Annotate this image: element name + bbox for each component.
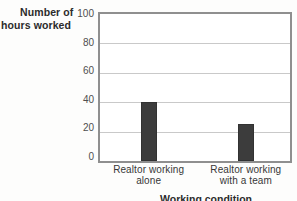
gridline-60 — [100, 73, 290, 74]
bar-chart-figure: Number of hours worked 020406080100 Real… — [0, 0, 297, 201]
y-tick-label-40: 40 — [0, 94, 94, 106]
x-category-label-realtor-working-alone: Realtor workingalone — [94, 165, 204, 186]
bar-realtor-working-with-a-team — [238, 124, 254, 161]
x-axis-title: Working condition — [146, 193, 266, 201]
y-tick-label-20: 20 — [0, 122, 94, 134]
y-tick-label-100: 100 — [0, 8, 94, 20]
gridline-40 — [100, 102, 290, 103]
bar-realtor-working-alone — [141, 102, 157, 161]
x-category-label-line: Realtor working — [94, 165, 204, 176]
x-category-label-line: Realtor working — [191, 165, 297, 176]
plot-area — [98, 12, 292, 163]
gridline-80 — [100, 43, 290, 44]
y-tick-label-60: 60 — [0, 65, 94, 77]
x-category-label-line: with a team — [191, 176, 297, 187]
x-category-label-line: alone — [94, 176, 204, 187]
y-axis-title-line-2: hours worked — [1, 19, 71, 31]
y-tick-label-0: 0 — [0, 151, 94, 163]
y-tick-label-80: 80 — [0, 37, 94, 49]
gridline-20 — [100, 132, 290, 133]
x-category-label-realtor-working-with-a-team: Realtor workingwith a team — [191, 165, 297, 186]
